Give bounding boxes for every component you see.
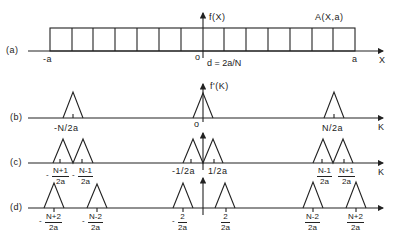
tick-origin-b: o (194, 120, 200, 129)
tick-minus-n-plus-2: - N+2 2a (45, 213, 62, 232)
tick-origin: o (195, 53, 201, 62)
tick-minus-2-over-2a: - 2 2a (178, 213, 187, 232)
tick-n-plus-1: N+1 2a (338, 167, 355, 186)
aperture-label: A(X,a) (315, 13, 344, 22)
tick-n-minus-2: N-2 2a (305, 213, 320, 232)
row-label-b: (b) (10, 113, 23, 122)
fprime-label: f'(K) (210, 82, 229, 91)
k-axis-label-c: K (378, 168, 385, 177)
tick-minus-n-minus-2: - N-2 2a (88, 213, 103, 232)
f-of-x-label: f(X) (209, 13, 226, 22)
tick-minus-n-minus-1: - N-1 2a (78, 167, 93, 186)
tick-a: a (352, 55, 358, 64)
tick-n-plus-2: N+2 2a (347, 213, 364, 232)
tick-n-2a: N/2a (322, 124, 343, 133)
row-c-graphic (28, 133, 383, 170)
x-axis-label: X (379, 56, 386, 65)
row-label-c: (c) (10, 158, 22, 167)
tick-minus-half-a: -1/2a (172, 167, 195, 176)
row-b-graphic (28, 84, 383, 122)
row-label-d: (d) (10, 203, 23, 212)
tick-minus-n-2a: -N/2a (54, 124, 79, 133)
tick-2-over-2a: 2 2a (221, 213, 230, 232)
tick-half-a: 1/2a (208, 167, 228, 176)
tick-minus-n-plus-1: - N+1 2a (52, 167, 69, 186)
tick-minus-a: -a (43, 55, 52, 64)
spacing-label: d = 2a/N (207, 59, 241, 68)
tick-n-minus-1: N-1 2a (317, 167, 332, 186)
row-label-a: (a) (6, 46, 19, 55)
k-axis-label-b: K (378, 123, 385, 132)
